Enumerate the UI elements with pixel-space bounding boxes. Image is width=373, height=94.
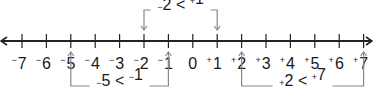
tick-label: 0 — [188, 55, 197, 72]
tick-label: +3 — [255, 55, 270, 72]
comparison-text: −2 < +1 — [157, 0, 204, 13]
number-line-diagram: −7−6−5−4−3−2−10+1+2+3+4+5+6+7 −2 < +1−5 … — [0, 0, 373, 94]
tick-label: −6 — [36, 55, 51, 72]
comparison--2-lt-1: −2 < +1 — [141, 0, 220, 30]
tick-label: −4 — [85, 55, 100, 72]
tick-label: +2 — [231, 55, 246, 72]
tick-label: +4 — [280, 55, 295, 72]
tick-label: +6 — [329, 55, 344, 72]
tick-label: +1 — [207, 55, 222, 72]
tick-label: −5 — [60, 55, 75, 72]
tick-label: −7 — [11, 55, 26, 72]
tick-label: −3 — [109, 55, 124, 72]
tick-labels: −7−6−5−4−3−2−10+1+2+3+4+5+6+7 — [11, 55, 368, 72]
tick-label: −1 — [158, 55, 173, 72]
tick-label: +7 — [353, 55, 368, 72]
